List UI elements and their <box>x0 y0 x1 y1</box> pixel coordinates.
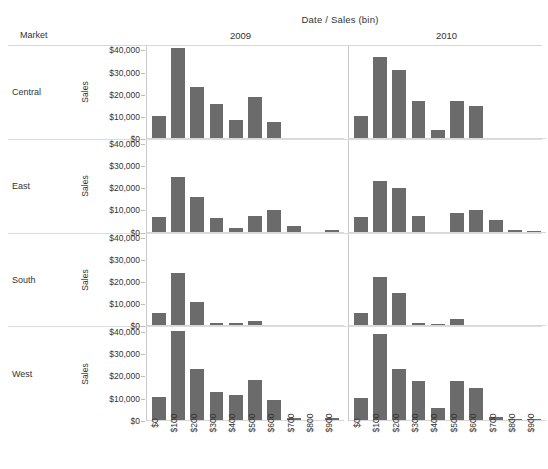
bar[interactable] <box>152 313 166 326</box>
trellis-row-south: SouthSales$40,000$30,000$20,000$10,000$0 <box>8 234 542 328</box>
bar-slot <box>284 46 303 139</box>
y-tick-label: $30,000 <box>109 255 140 265</box>
x-axis-band: $0$100$200$300$400$500$600$700$800$900 $… <box>8 421 542 469</box>
bar[interactable] <box>373 334 387 422</box>
x-tick-slot: $400 <box>420 421 439 469</box>
bar-slot <box>409 140 428 233</box>
bar-slot <box>245 140 264 233</box>
bar-slot <box>467 234 486 327</box>
bar[interactable] <box>171 177 185 233</box>
plot-area <box>349 140 546 233</box>
bar-slot <box>447 46 466 139</box>
bar[interactable] <box>210 218 224 232</box>
column-header-2009: 2009 <box>138 30 343 41</box>
bar[interactable] <box>248 216 262 232</box>
x-tick-label: $500 <box>247 414 257 433</box>
bar[interactable] <box>152 116 166 139</box>
bar-slot <box>303 140 322 233</box>
bar[interactable] <box>354 116 368 139</box>
bar[interactable] <box>171 48 185 139</box>
bar[interactable] <box>267 122 281 139</box>
bar-slot <box>207 140 226 233</box>
bar-slot <box>351 234 370 327</box>
bar[interactable] <box>392 293 406 327</box>
bar-slot <box>505 46 524 139</box>
bar[interactable] <box>190 197 204 232</box>
panel-header-band: Market 2009 2010 <box>8 28 542 46</box>
bar[interactable] <box>354 313 368 327</box>
bar[interactable] <box>469 210 483 233</box>
x-tick-label: $700 <box>488 414 498 433</box>
bar-slot <box>486 46 505 139</box>
bar-slot <box>370 140 389 233</box>
bar-slot <box>207 234 226 327</box>
panel-central-2010 <box>348 46 546 139</box>
bar[interactable] <box>171 331 185 421</box>
bar-slot <box>370 46 389 139</box>
bar-slot <box>525 327 544 421</box>
bar-slot <box>188 140 207 233</box>
y-tick-label: $10,000 <box>109 299 140 309</box>
x-tick-slot: $0 <box>342 421 361 469</box>
bar-slot <box>303 46 322 139</box>
bar[interactable] <box>450 101 464 139</box>
plot-area <box>349 46 546 139</box>
bar[interactable] <box>210 104 224 139</box>
bar[interactable] <box>412 216 426 233</box>
bar-slot <box>390 327 409 421</box>
plot-area <box>147 327 344 421</box>
y-axis: Sales$40,000$30,000$20,000$10,000$0 <box>86 327 146 421</box>
x-tick-slot: $100 <box>159 421 178 469</box>
bar[interactable] <box>392 188 406 232</box>
bar-slot <box>525 234 544 327</box>
x-axis-2010: $0$100$200$300$400$500$600$700$800$900 <box>340 421 538 469</box>
x-tick-slot: $700 <box>478 421 497 469</box>
bar[interactable] <box>450 213 464 232</box>
bar-slot <box>351 140 370 233</box>
bar[interactable] <box>190 87 204 139</box>
bar[interactable] <box>152 217 166 233</box>
bar-slot <box>168 140 187 233</box>
panel-west-2010 <box>348 327 546 421</box>
column-field-title: Date / Sales (bin) <box>138 14 542 25</box>
y-tick-label: $40,000 <box>109 233 140 243</box>
y-tick-label: $20,000 <box>109 277 140 287</box>
y-tick-label: $40,000 <box>109 139 140 149</box>
bar-series <box>149 140 342 233</box>
bar-slot <box>168 46 187 139</box>
bar[interactable] <box>373 57 387 139</box>
bar[interactable] <box>373 277 387 326</box>
bar[interactable] <box>190 302 204 326</box>
bar-slot <box>505 234 524 327</box>
bar-slot <box>428 234 447 327</box>
x-tick-slot: $200 <box>381 421 400 469</box>
bar-slot <box>409 327 428 421</box>
bar-slot <box>265 234 284 327</box>
y-tick-label: $30,000 <box>109 161 140 171</box>
bar[interactable] <box>267 210 281 233</box>
bar-slot <box>323 140 342 233</box>
bar[interactable] <box>469 106 483 139</box>
bar[interactable] <box>412 101 426 139</box>
plot-area <box>349 234 546 327</box>
y-axis: Sales$40,000$30,000$20,000$10,000$0 <box>86 46 146 139</box>
bar[interactable] <box>171 273 185 326</box>
row-label-west: West <box>12 327 86 421</box>
y-axis-title: Sales <box>80 269 90 290</box>
x-tick-label: $300 <box>410 414 420 433</box>
bar-series <box>149 234 342 327</box>
x-tick-label: $300 <box>208 414 218 433</box>
bar[interactable] <box>248 97 262 139</box>
bar[interactable] <box>354 217 368 232</box>
row-label-south: South <box>12 234 86 327</box>
y-tick-label: $20,000 <box>109 90 140 100</box>
bar[interactable] <box>392 70 406 138</box>
y-tick-label: $10,000 <box>109 205 140 215</box>
bar[interactable] <box>373 181 387 233</box>
bar[interactable] <box>229 120 243 139</box>
x-tick-label: $500 <box>449 414 459 433</box>
x-tick-label: $600 <box>266 414 276 433</box>
bar-slot <box>245 327 264 421</box>
bar-slot <box>447 140 466 233</box>
bar-slot <box>409 46 428 139</box>
